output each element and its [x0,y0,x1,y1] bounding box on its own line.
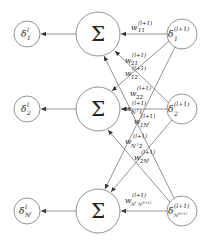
svg-text:(l+1): (l+1) [142,201,152,205]
svg-text:12: 12 [131,74,138,80]
svg-text:δ: δ [19,206,24,216]
sum-node-n: Σ [76,189,120,233]
weight-label-n2: w (l+1) N l 2 [125,133,147,149]
svg-text:(l+1): (l+1) [137,85,151,91]
svg-text:(l+1): (l+1) [138,20,152,26]
svg-text:l: l [135,201,136,205]
svg-text:N: N [130,109,136,115]
svg-text:(l+1): (l+1) [133,133,147,139]
svg-text:(l+1): (l+1) [174,100,190,107]
svg-text:Σ: Σ [91,22,105,46]
sum-node-1: Σ [76,12,120,56]
svg-text:(l+1): (l+1) [132,52,146,58]
svg-text:l: l [27,101,29,108]
weight-label-nn: w (l+1) N l N (l+1) [125,192,152,207]
svg-text:1: 1 [27,34,31,41]
svg-text:Σ: Σ [91,97,105,121]
svg-text:δ: δ [21,29,26,39]
svg-text:(l+1): (l+1) [141,113,155,119]
svg-text:(l+1): (l+1) [141,149,155,155]
svg-text:11: 11 [138,27,145,33]
svg-text:(l+1): (l+1) [174,25,190,32]
svg-text:l: l [148,157,150,162]
svg-text:w: w [131,23,138,32]
svg-text:1: 1 [174,35,178,42]
svg-text:N: N [130,143,136,149]
svg-text:(l+1): (l+1) [132,192,146,198]
svg-text:(l+1): (l+1) [174,202,190,209]
left-delta-node-1: δ l 1 [14,21,40,47]
weight-label-22: w (l+1) 22 [130,85,151,100]
svg-text:l: l [25,203,27,210]
left-delta-node-n: δ l N l [14,198,40,224]
output-edges [41,34,76,211]
left-delta-node-2: δ l 2 [14,96,40,122]
weight-label-2n: w (l+1) 2N l [134,149,155,164]
svg-text:l: l [27,26,29,33]
weight-label-11: w (l+1) 11 [131,20,152,33]
backprop-diagram: δ l 1 δ l 2 δ l N l Σ Σ Σ δ (l+1) 1 δ (l… [0,0,210,241]
svg-text:l: l [148,121,150,126]
svg-text:2: 2 [173,110,178,117]
svg-text:(l+1): (l+1) [132,100,146,106]
svg-text:δ: δ [168,206,173,216]
right-delta-node-1: δ (l+1) 1 [167,19,197,49]
sum-node-2: Σ [76,87,120,131]
right-delta-node-2: δ (l+1) 2 [167,94,197,124]
svg-text:2: 2 [26,109,31,116]
svg-text:δ: δ [168,29,173,39]
svg-text:(l+1): (l+1) [178,212,188,216]
right-delta-node-n: δ (l+1) N (l+1) [167,196,197,226]
svg-text:δ: δ [168,104,173,114]
svg-text:δ: δ [21,104,26,114]
weight-label-1n: w (l+1) 1N l [134,113,155,128]
svg-text:Σ: Σ [91,199,105,223]
svg-text:(l+1): (l+1) [132,65,146,71]
